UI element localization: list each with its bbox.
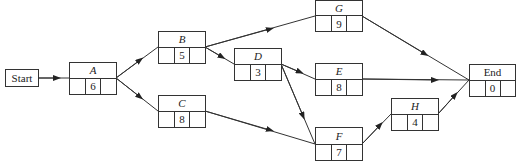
node-e: E 8: [316, 64, 363, 96]
node-c-duration: 8: [179, 113, 185, 125]
node-c: C 8: [159, 96, 206, 128]
end-label: End: [484, 66, 502, 78]
node-b-label: B: [179, 33, 186, 45]
node-b-duration: 5: [179, 49, 185, 61]
node-d: D 3: [235, 49, 282, 81]
node-d-label: D: [253, 50, 262, 62]
end-node: End 0: [470, 65, 516, 97]
node-c-label: C: [178, 97, 186, 109]
node-h-duration: 4: [412, 116, 418, 128]
node-a-label: A: [89, 64, 97, 76]
node-d-duration: 3: [255, 66, 261, 78]
node-h-label: H: [410, 100, 420, 112]
node-f-duration: 7: [336, 146, 342, 158]
start-node: Start: [6, 70, 39, 87]
node-g: G 9: [316, 1, 363, 32]
node-e-duration: 8: [336, 81, 342, 93]
node-g-label: G: [335, 2, 343, 14]
node-e-label: E: [335, 65, 343, 77]
node-h: H 4: [392, 99, 439, 131]
node-f-label: F: [335, 130, 343, 142]
network-diagram: Start A 6 B 5 C 8 D 3: [0, 0, 520, 164]
node-f: F 7: [316, 128, 363, 161]
start-label: Start: [12, 72, 33, 84]
node-a-duration: 6: [90, 80, 96, 92]
end-duration: 0: [490, 82, 496, 94]
node-b: B 5: [159, 32, 206, 64]
node-g-duration: 9: [336, 18, 342, 30]
node-a: A 6: [70, 63, 117, 95]
